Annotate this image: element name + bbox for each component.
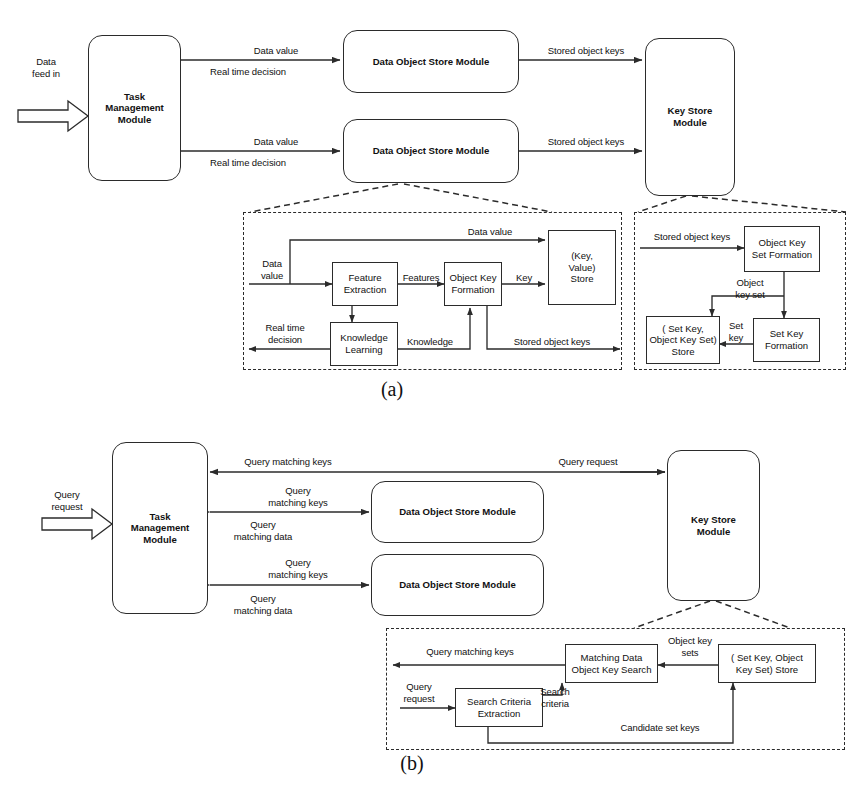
edge-label-inner-knowledge: Knowledge <box>407 336 453 348</box>
node-label: Feature Extraction <box>344 272 387 295</box>
edge-label-inner-real-time-decision: Real time decision <box>265 322 304 345</box>
edge-label-inner-data-value-in: Data value <box>261 258 283 281</box>
node-data-object-store-module-b1[interactable]: Data Object Store Module <box>371 481 544 543</box>
edge-label-inner-object-key-sets: Object key sets <box>668 635 712 658</box>
node-label: Set Key Formation <box>765 328 808 351</box>
node-label: Key Store Module <box>668 105 713 128</box>
node-key-store-module-b[interactable]: Key Store Module <box>667 450 760 601</box>
edge-label-query-matching-data-2: Query matching data <box>234 593 292 616</box>
node-label: Object Key Set Formation <box>752 237 812 260</box>
node-label: ( Set Key, Object Key Set) Store <box>731 652 803 675</box>
edge-label-stored-object-keys-top: Stored object keys <box>548 45 624 57</box>
edge-label-inner-search-criteria: Search criteria <box>540 686 570 709</box>
edge-label-inner-data-value-bypass: Data value <box>468 226 512 238</box>
edge-label-ks-object-key-set: Object key set <box>735 277 764 300</box>
edge-label-inner-query-request: Query request <box>404 681 435 704</box>
node-set-key-object-key-set-store-b[interactable]: ( Set Key, Object Key Set) Store <box>718 644 816 683</box>
edge-label-query-matching-keys-1: Query matching keys <box>268 485 327 508</box>
node-set-key-object-key-set-store-a[interactable]: ( Set Key, Object Key Set) Store <box>646 316 720 364</box>
node-label: Data Object Store Module <box>373 145 490 157</box>
edge-label-data-value-bottom: Data value <box>254 136 298 148</box>
edge-label-query-matching-keys-top: Query matching keys <box>244 456 331 468</box>
node-label: Object Key Formation <box>450 272 497 295</box>
edge-label-inner-query-matching-keys: Query matching keys <box>426 646 513 658</box>
node-object-key-set-formation[interactable]: Object Key Set Formation <box>744 226 820 272</box>
node-label: Task Management Module <box>105 91 164 126</box>
edge-label-query-request-top-right: Query request <box>559 456 618 468</box>
edge-label-real-time-decision-bottom: Real time decision <box>210 157 286 169</box>
node-label: ( Set Key, Object Key Set) Store <box>649 323 716 358</box>
node-key-value-store[interactable]: (Key, Value) Store <box>548 230 616 305</box>
node-data-object-store-module-a2[interactable]: Data Object Store Module <box>343 119 519 183</box>
node-task-management-module-b[interactable]: Task Management Module <box>112 442 208 614</box>
node-label: Data Object Store Module <box>399 506 516 518</box>
node-task-management-module-a[interactable]: Task Management Module <box>88 35 181 181</box>
edge-label-inner-key: Key <box>516 272 532 284</box>
node-label: Data Object Store Module <box>399 579 516 591</box>
edge-label-inner-stored-object-keys-out: Stored object keys <box>514 336 590 348</box>
figure-caption-a: (a) <box>381 378 403 401</box>
node-label: Search Criteria Extraction <box>467 696 531 719</box>
edge-label-inner-features: Features <box>403 272 440 284</box>
node-label: Key Store Module <box>691 514 736 537</box>
edge-label-query-matching-keys-2: Query matching keys <box>268 557 327 580</box>
node-label: Knowledge Learning <box>340 332 387 355</box>
node-label: (Key, Value) Store <box>568 250 595 285</box>
edge-label-data-feed-in: Data feed in <box>32 56 60 79</box>
edge-label-inner-candidate-set-keys: Candidate set keys <box>621 722 700 734</box>
edge-label-ks-set-key: Set key <box>729 320 743 343</box>
figure-canvas: Task Management Module Data Object Store… <box>0 0 854 796</box>
edge-label-real-time-decision-top: Real time decision <box>210 66 286 78</box>
node-key-store-module-a[interactable]: Key Store Module <box>645 38 735 196</box>
node-object-key-formation[interactable]: Object Key Formation <box>444 262 502 306</box>
node-feature-extraction[interactable]: Feature Extraction <box>332 262 398 306</box>
edge-label-data-value-top: Data value <box>254 45 298 57</box>
node-label: Matching Data Object Key Search <box>572 652 652 675</box>
edge-label-query-request-in: Query request <box>52 489 83 512</box>
node-label: Data Object Store Module <box>373 56 490 68</box>
node-data-object-store-module-b2[interactable]: Data Object Store Module <box>371 554 544 616</box>
figure-caption-b: (b) <box>400 752 423 775</box>
node-matching-data-object-key-search[interactable]: Matching Data Object Key Search <box>565 644 658 683</box>
node-knowledge-learning[interactable]: Knowledge Learning <box>330 322 398 366</box>
node-search-criteria-extraction[interactable]: Search Criteria Extraction <box>455 688 543 727</box>
node-data-object-store-module-a1[interactable]: Data Object Store Module <box>343 30 519 93</box>
edge-label-stored-object-keys-bottom: Stored object keys <box>548 136 624 148</box>
edge-label-query-matching-data-1: Query matching data <box>234 519 292 542</box>
node-set-key-formation[interactable]: Set Key Formation <box>753 318 820 362</box>
edge-label-ks-stored-object-keys-in: Stored object keys <box>654 231 730 243</box>
node-label: Task Management Module <box>131 511 190 546</box>
